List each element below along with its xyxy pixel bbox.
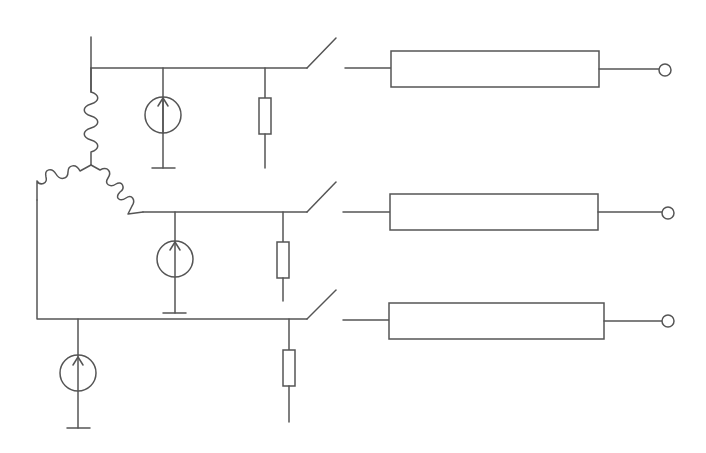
terminal-phase-3[interactable] bbox=[662, 315, 674, 327]
resistor-phase-2 bbox=[277, 212, 289, 301]
phase-3-branch bbox=[37, 200, 674, 428]
resistor-phase-3 bbox=[283, 319, 295, 422]
line-box-phase-2 bbox=[390, 194, 598, 230]
phase-2-branch bbox=[143, 182, 674, 313]
switch-phase-1[interactable] bbox=[307, 38, 336, 68]
current-source-phase-2 bbox=[157, 212, 193, 313]
three-phase-circuit-diagram: Three-phase generator with current sourc… bbox=[0, 0, 706, 453]
line-box-phase-1 bbox=[391, 51, 599, 87]
phase-1-branch bbox=[91, 37, 671, 168]
switch-phase-2[interactable] bbox=[307, 182, 336, 212]
current-source-phase-3 bbox=[60, 319, 96, 428]
winding-phase-3 bbox=[37, 165, 91, 200]
line-box-phase-3 bbox=[389, 303, 604, 339]
terminal-phase-2[interactable] bbox=[662, 207, 674, 219]
resistor-phase-1 bbox=[259, 68, 271, 168]
current-source-phase-1 bbox=[145, 68, 181, 168]
generator-windings bbox=[37, 68, 143, 214]
bus-wire-phase-1 bbox=[91, 68, 307, 92]
winding-phase-2 bbox=[91, 165, 143, 214]
bus-wire-phase-3 bbox=[37, 200, 307, 319]
switch-phase-3[interactable] bbox=[307, 290, 336, 319]
terminal-phase-1[interactable] bbox=[659, 64, 671, 76]
